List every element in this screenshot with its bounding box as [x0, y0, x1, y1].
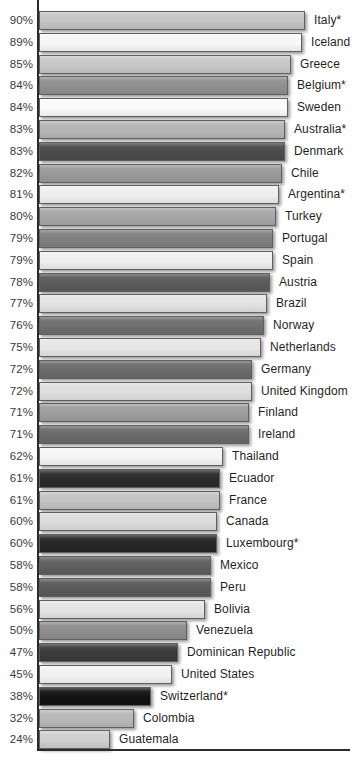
bar-container	[39, 469, 220, 488]
bar-container	[39, 55, 291, 74]
bar	[39, 469, 220, 488]
bar	[39, 294, 267, 313]
bar	[39, 120, 285, 139]
bar	[39, 185, 279, 204]
bar-container	[39, 229, 273, 248]
bar	[39, 556, 211, 575]
bar-container	[39, 534, 217, 553]
bar	[39, 142, 285, 161]
bar	[39, 338, 261, 357]
bar-container	[39, 447, 223, 466]
bar-container	[39, 512, 217, 531]
bar-container	[39, 273, 270, 292]
bar	[39, 98, 288, 117]
bar	[39, 447, 223, 466]
bar-chart: 90%Italy*89%Iceland85%Greece84%Belgium*8…	[0, 0, 352, 764]
bar-container	[39, 185, 279, 204]
bar-container	[39, 621, 187, 640]
bar-container	[39, 382, 252, 401]
bar	[39, 425, 249, 444]
bar-container	[39, 578, 211, 597]
bar-container	[39, 643, 178, 662]
bar-container	[39, 600, 205, 619]
bar	[39, 600, 205, 619]
bar-container	[39, 425, 249, 444]
bar-container	[39, 98, 288, 117]
bar	[39, 273, 270, 292]
value-tick-label: 24%	[0, 727, 33, 752]
bar	[39, 621, 187, 640]
bar-container	[39, 11, 305, 30]
bar-container	[39, 730, 110, 749]
bar-container	[39, 556, 211, 575]
bar	[39, 382, 252, 401]
bar-container	[39, 491, 220, 510]
bar	[39, 229, 273, 248]
bar	[39, 55, 291, 74]
bar	[39, 512, 217, 531]
bar-container	[39, 316, 264, 335]
bar	[39, 11, 305, 30]
bar	[39, 665, 172, 684]
bar-container	[39, 251, 273, 270]
bar-container	[39, 164, 282, 183]
bar-container	[39, 360, 252, 379]
bar	[39, 403, 249, 422]
bar-container	[39, 120, 285, 139]
bar-container	[39, 338, 261, 357]
bar	[39, 164, 282, 183]
category-axis-line	[37, 0, 39, 750]
bar-container	[39, 33, 302, 52]
bar	[39, 316, 264, 335]
bar-container	[39, 207, 276, 226]
bar	[39, 730, 110, 749]
bar	[39, 534, 217, 553]
bar-container	[39, 687, 151, 706]
bar	[39, 251, 273, 270]
bar	[39, 33, 302, 52]
plot-area: 90%Italy*89%Iceland85%Greece84%Belgium*8…	[0, 0, 352, 750]
bar-container	[39, 709, 134, 728]
bar-container	[39, 142, 285, 161]
bar-container	[39, 76, 288, 95]
bar-container	[39, 665, 172, 684]
bar-container	[39, 294, 267, 313]
bar	[39, 207, 276, 226]
bar-container	[39, 403, 249, 422]
bar	[39, 709, 134, 728]
bar	[39, 578, 211, 597]
bar	[39, 360, 252, 379]
bar	[39, 687, 151, 706]
bar	[39, 76, 288, 95]
bar	[39, 643, 178, 662]
value-axis-baseline	[37, 749, 350, 751]
bar	[39, 491, 220, 510]
